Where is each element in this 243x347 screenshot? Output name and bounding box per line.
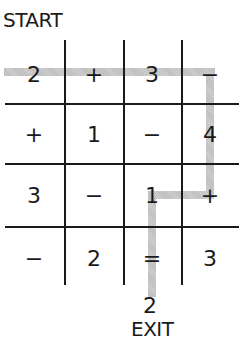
grid-cell: −: [65, 165, 123, 225]
grid-cell: 2: [5, 44, 63, 104]
start-label: START: [3, 8, 62, 32]
exit-label: EXIT: [131, 317, 173, 341]
grid-cell: 4: [181, 104, 239, 164]
exit-value: 2: [143, 293, 157, 318]
grid-cell: 3: [181, 228, 239, 288]
grid-cell: −: [181, 44, 239, 104]
grid-cell: 2: [65, 228, 123, 288]
grid-cell: −: [5, 228, 63, 288]
grid-cell: +: [181, 165, 239, 225]
grid-cell: 3: [123, 44, 181, 104]
grid-cell: 3: [5, 165, 63, 225]
grid-cell: 1: [123, 165, 181, 225]
grid-cell: −: [123, 104, 181, 164]
grid-cell: +: [5, 104, 63, 164]
grid-cell: 1: [65, 104, 123, 164]
grid-cell: =: [123, 228, 181, 288]
grid-cell: +: [65, 44, 123, 104]
